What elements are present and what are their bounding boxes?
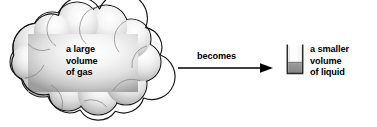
diagram-canvas: a large volume of gas becomes a smaller … bbox=[0, 0, 377, 127]
beaker-label-line-1: a smaller bbox=[310, 44, 349, 56]
arrow-label: becomes bbox=[197, 51, 236, 63]
beaker-label-line-3: of liquid bbox=[310, 67, 349, 79]
cloud-label-line-2: volume bbox=[66, 56, 98, 68]
beaker-label: a smaller volume of liquid bbox=[310, 44, 349, 79]
cloud-label: a large volume of gas bbox=[66, 44, 98, 79]
beaker-icon bbox=[287, 45, 302, 75]
cloud-label-line-3: of gas bbox=[66, 67, 98, 79]
right-arrow-icon bbox=[178, 63, 273, 73]
beaker-label-line-2: volume bbox=[310, 56, 349, 68]
cloud-label-line-1: a large bbox=[66, 44, 98, 56]
